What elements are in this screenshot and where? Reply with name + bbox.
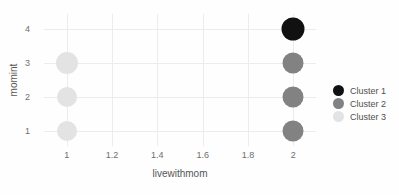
legend-label: Cluster 1 [350,86,386,96]
gridline-horizontal [44,131,316,132]
legend-marker-icon [333,85,344,96]
legend-label: Cluster 3 [350,112,386,122]
gridline-vertical [157,14,158,146]
x-axis-label: livewithmom [44,168,316,179]
data-point [57,87,77,107]
legend-item[interactable]: Cluster 3 [333,110,386,123]
y-tick-label: 2 [25,92,30,102]
legend-marker-icon [333,98,344,109]
x-tick-label: 1.2 [106,150,119,160]
gridline-vertical [203,14,204,146]
x-tick-label: 1.6 [196,150,209,160]
y-tick-label: 3 [25,58,30,68]
data-point [57,121,77,141]
legend-marker-icon [333,111,344,122]
gridline-horizontal [44,29,316,30]
data-point [283,86,304,107]
gridline-horizontal [44,97,316,98]
data-point [56,52,78,74]
x-tick-label: 1 [64,150,69,160]
y-tick-label: 4 [25,24,30,34]
data-point [283,120,304,141]
plot-area [44,14,316,146]
scatter-chart: 11.21.41.61.82 1234 livewithmom momint C… [0,0,399,195]
y-axis-label: momint [8,64,19,97]
chart-legend: Cluster 1Cluster 2Cluster 3 [333,84,386,123]
y-tick-label: 1 [25,126,30,136]
gridline-vertical [248,14,249,146]
gridline-horizontal [44,63,316,64]
x-tick-label: 1.8 [242,150,255,160]
x-tick-label: 2 [291,150,296,160]
data-point [283,53,304,74]
legend-item[interactable]: Cluster 2 [333,97,386,110]
gridline-vertical [112,14,113,146]
data-point [282,18,305,41]
x-tick-label: 1.4 [151,150,164,160]
legend-item[interactable]: Cluster 1 [333,84,386,97]
legend-label: Cluster 2 [350,99,386,109]
